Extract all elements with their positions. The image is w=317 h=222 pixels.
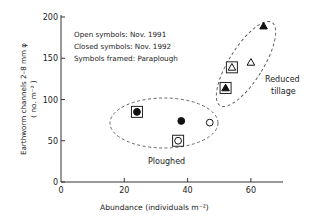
legend: Open symbols: Nov. 1991 Closed symbols: … bbox=[74, 30, 178, 63]
ploughed-label: Ploughed bbox=[148, 157, 185, 166]
x-ticks: 0204060 bbox=[58, 178, 256, 195]
y-axis-label: Earthworm channels 2–8 mm φ bbox=[19, 43, 28, 155]
y-tick-label: 200 bbox=[43, 13, 58, 22]
tillage-label: tillage bbox=[271, 87, 296, 96]
x-tick-label: 20 bbox=[119, 186, 129, 195]
y-tick-label: 50 bbox=[48, 137, 58, 146]
ploughed-group-ellipse bbox=[110, 98, 218, 148]
scatter-chart: 050100150200 0204060 Open symbols: Nov. … bbox=[0, 0, 317, 222]
y-ticks: 050100150200 bbox=[43, 13, 65, 187]
filled-triangle-marker bbox=[260, 22, 268, 29]
y-axis-unit-label: ( no. m⁻² ) bbox=[29, 80, 38, 117]
data-points bbox=[131, 22, 267, 146]
reduced-tillage-group-ellipse bbox=[206, 13, 287, 114]
y-tick-label: 0 bbox=[53, 178, 58, 187]
legend-open-symbols: Open symbols: Nov. 1991 bbox=[74, 30, 166, 39]
legend-closed-symbols: Closed symbols: Nov. 1992 bbox=[74, 42, 171, 51]
x-tick-label: 0 bbox=[58, 186, 63, 195]
open-circle-marker bbox=[206, 119, 213, 126]
x-tick-label: 40 bbox=[183, 186, 193, 195]
x-axis-label: Abundance (individuals m⁻²) bbox=[100, 203, 209, 212]
reduced-label: Reduced bbox=[265, 75, 300, 84]
open-triangle-marker bbox=[247, 59, 255, 66]
open-circle-marker bbox=[175, 137, 182, 144]
legend-symbols-framed: Symbols framed: Paraplough bbox=[74, 54, 178, 63]
filled-circle-marker bbox=[178, 118, 185, 125]
x-tick-label: 60 bbox=[246, 186, 256, 195]
filled-circle-marker bbox=[134, 108, 141, 115]
y-tick-label: 150 bbox=[43, 54, 58, 63]
y-tick-label: 100 bbox=[43, 96, 58, 105]
